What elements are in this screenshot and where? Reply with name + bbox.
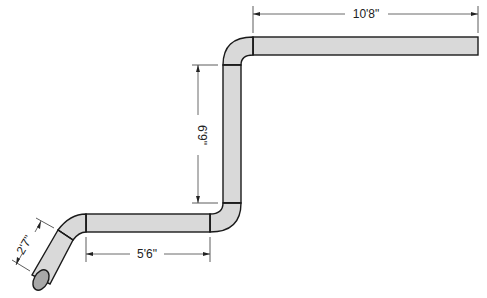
arrow-down-icon <box>196 196 200 203</box>
dimension-vertical-rise: 6'9" <box>192 65 218 203</box>
top-pipe-segment <box>253 37 478 55</box>
dimension-label-bottom-run: 5'6" <box>137 247 157 261</box>
vertical-pipe-segment <box>223 65 241 203</box>
dimension-label-vertical-rise: 6'9" <box>195 125 209 145</box>
top-elbow <box>223 37 253 65</box>
bottom-pipe-segment <box>86 214 210 232</box>
dimension-top-run: 10'8" <box>253 6 478 33</box>
pipe-diagram: 10'8" 6'9" 5'6" 2'7" <box>0 0 487 298</box>
bottom-right-elbow <box>210 203 241 232</box>
dimension-label-top-run: 10'8" <box>353 7 380 21</box>
arrow-left-icon <box>86 252 93 256</box>
dimension-bottom-run: 5'6" <box>86 237 210 262</box>
arrow-right-icon <box>471 12 478 16</box>
arrow-up-icon <box>196 65 200 72</box>
arrow-right-icon <box>203 252 210 256</box>
dimension-label-angled-segment: 2'7" <box>13 233 35 257</box>
arrow-left-icon <box>253 12 260 16</box>
